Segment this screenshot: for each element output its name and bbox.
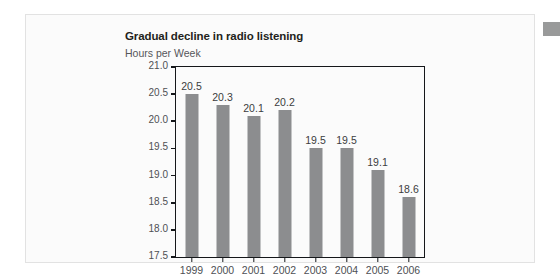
y-axis-tick-label: 21.0 bbox=[130, 60, 168, 71]
x-axis-tick-mark bbox=[191, 257, 192, 262]
bar-group[interactable]: 20.22002 bbox=[269, 67, 300, 257]
bar[interactable] bbox=[185, 94, 198, 257]
bar[interactable] bbox=[216, 105, 229, 257]
bar-group[interactable]: 20.51999 bbox=[176, 67, 207, 257]
x-axis-tick-mark bbox=[377, 257, 378, 262]
x-axis-tick-mark bbox=[315, 257, 316, 262]
bar[interactable] bbox=[247, 116, 260, 257]
bar[interactable] bbox=[278, 110, 291, 257]
bar-group[interactable]: 20.12001 bbox=[238, 67, 269, 257]
bar-value-label: 20.3 bbox=[212, 91, 232, 103]
y-axis-tick-label: 20.5 bbox=[130, 87, 168, 98]
plot-area: 21.020.520.019.519.018.518.017.5 20.5199… bbox=[176, 67, 424, 257]
bar-value-label: 19.5 bbox=[305, 134, 325, 146]
x-axis-tick-mark bbox=[346, 257, 347, 262]
bar[interactable] bbox=[309, 148, 322, 257]
y-axis-tick-label: 17.5 bbox=[130, 250, 168, 261]
bar-group[interactable]: 19.52004 bbox=[331, 67, 362, 257]
chart-title: Gradual decline in radio listening bbox=[125, 30, 303, 42]
bar-value-label: 19.5 bbox=[336, 134, 356, 146]
y-axis-tick-label: 19.5 bbox=[130, 141, 168, 152]
x-axis-tick-label: 2002 bbox=[273, 264, 296, 276]
bar-group[interactable]: 20.32000 bbox=[207, 67, 238, 257]
bar-group[interactable]: 19.12005 bbox=[362, 67, 393, 257]
x-axis-tick-mark bbox=[222, 257, 223, 262]
x-axis-tick-label: 2003 bbox=[304, 264, 327, 276]
x-axis-tick-label: 2000 bbox=[211, 264, 234, 276]
x-axis-tick-mark bbox=[253, 257, 254, 262]
figure-card: Gradual decline in radio listening Hours… bbox=[25, 14, 535, 263]
bar-value-label: 18.6 bbox=[398, 183, 418, 195]
bar-value-label: 20.1 bbox=[243, 102, 263, 114]
bar-value-label: 20.5 bbox=[181, 80, 201, 92]
bar-value-label: 20.2 bbox=[274, 96, 294, 108]
bar[interactable] bbox=[340, 148, 353, 257]
bar[interactable] bbox=[371, 170, 384, 257]
y-axis-tick-label: 18.0 bbox=[130, 223, 168, 234]
y-axis-tick-label: 20.0 bbox=[130, 114, 168, 125]
bar-group[interactable]: 19.52003 bbox=[300, 67, 331, 257]
x-axis-tick-label: 2006 bbox=[397, 264, 420, 276]
chart-subtitle-axis-label: Hours per Week bbox=[125, 47, 201, 59]
x-axis-tick-mark bbox=[284, 257, 285, 262]
y-axis-tick-label: 19.0 bbox=[130, 169, 168, 180]
y-axis-tick-label: 18.5 bbox=[130, 196, 168, 207]
x-axis-tick-label: 2001 bbox=[242, 264, 265, 276]
bar-group[interactable]: 18.62006 bbox=[393, 67, 424, 257]
x-axis-tick-label: 2005 bbox=[366, 264, 389, 276]
x-axis-tick-label: 2004 bbox=[335, 264, 358, 276]
bar[interactable] bbox=[402, 197, 415, 257]
bar-value-label: 19.1 bbox=[367, 156, 387, 168]
plot-frame: 21.020.520.019.519.018.518.017.5 20.5199… bbox=[175, 66, 425, 258]
x-axis-tick-mark bbox=[408, 257, 409, 262]
page-canvas: Gradual decline in radio listening Hours… bbox=[0, 0, 560, 277]
x-axis-tick-label: 1999 bbox=[180, 264, 203, 276]
corner-artifact-block bbox=[543, 22, 560, 36]
